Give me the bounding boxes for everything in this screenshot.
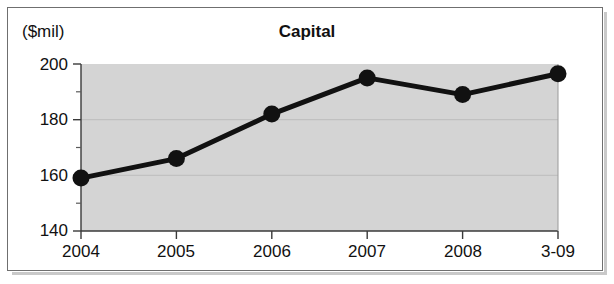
x-tick-label-2007: 2007 <box>322 242 412 262</box>
data-point-marker <box>263 106 280 123</box>
data-point-marker <box>454 86 471 103</box>
y-tick-label-200: 200 <box>8 55 68 75</box>
y-tick-label-180: 180 <box>8 110 68 130</box>
x-tick-label-2008: 2008 <box>418 242 508 262</box>
y-tick-label-140: 140 <box>8 221 68 241</box>
x-tick-label-2004: 2004 <box>36 242 126 262</box>
x-tick-label-3-09: 3-09 <box>513 242 603 262</box>
data-point-marker <box>73 170 90 187</box>
x-tick-label-2006: 2006 <box>227 242 317 262</box>
y-tick-label-160: 160 <box>8 166 68 186</box>
data-point-marker <box>550 65 567 82</box>
x-tick-label-2005: 2005 <box>131 242 221 262</box>
data-point-marker <box>168 150 185 167</box>
x-axis-ticks <box>81 231 558 239</box>
data-point-marker <box>359 69 376 86</box>
chart-figure: ($mil) Capital <box>0 0 614 284</box>
